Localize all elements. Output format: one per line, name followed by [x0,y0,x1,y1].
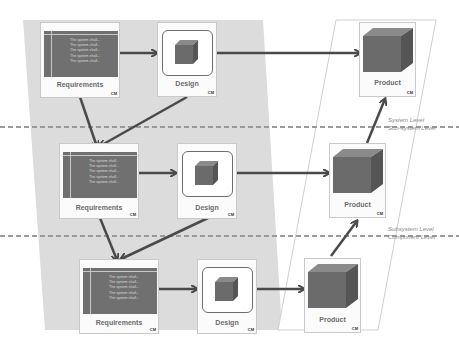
cm-badge: CM [352,326,358,331]
level-label-subsystem-bottom: Subsystem Level [388,226,434,232]
cube-icon [330,144,387,196]
cube-icon [183,152,231,195]
product-card-subsystem[interactable]: Product CM [329,143,386,218]
cm-badge: CM [130,212,136,217]
cube-icon [360,23,417,75]
cube-icon [163,31,211,74]
design-card-system[interactable]: Design CM [157,22,217,97]
requirements-card-subsystem[interactable]: The system shall... The system shall... … [59,143,139,219]
cube-icon [203,268,251,311]
design-card-component[interactable]: Design CM [197,259,257,334]
product-label: Product [305,316,360,323]
cm-badge: CM [228,212,234,217]
requirements-label: Requirements [60,204,138,211]
requirement-line: The system shall... [73,180,135,185]
level-label-subsystem-top: Sub-system Level [388,125,436,131]
requirements-card-component[interactable]: The system shall... The system shall... … [79,259,159,334]
design-frame [162,30,213,76]
level-label-component: Component Level [388,234,435,240]
requirements-card-system[interactable]: The system shall... The system shall... … [40,22,120,98]
product-label: Product [360,79,415,86]
requirements-label: Requirements [41,81,119,88]
cm-badge: CM [377,211,383,216]
cube-icon [305,259,362,311]
cm-badge: CM [150,327,156,332]
design-card-subsystem[interactable]: Design CM [177,143,237,219]
cm-badge: CM [208,90,214,95]
design-frame [202,267,253,313]
cm-badge: CM [248,327,254,332]
requirements-label: Requirements [80,319,158,326]
requirements-document-icon: The system shall... The system shall... … [63,152,137,198]
product-label: Product [330,201,385,208]
level-label-system: System Level [388,117,424,123]
requirement-line: The system shall... [93,296,155,301]
requirements-document-icon: The system shall... The system shall... … [44,31,118,77]
product-card-component[interactable]: Product CM [304,258,361,333]
design-label: Design [198,319,256,326]
cm-badge: CM [407,90,413,95]
design-frame [182,151,233,197]
design-label: Design [158,80,216,87]
requirements-document-icon: The system shall... The system shall... … [83,268,157,314]
requirement-line: The system shall... [54,59,116,64]
design-label: Design [178,204,236,211]
product-card-system[interactable]: Product CM [359,22,416,97]
cm-badge: CM [111,91,117,96]
